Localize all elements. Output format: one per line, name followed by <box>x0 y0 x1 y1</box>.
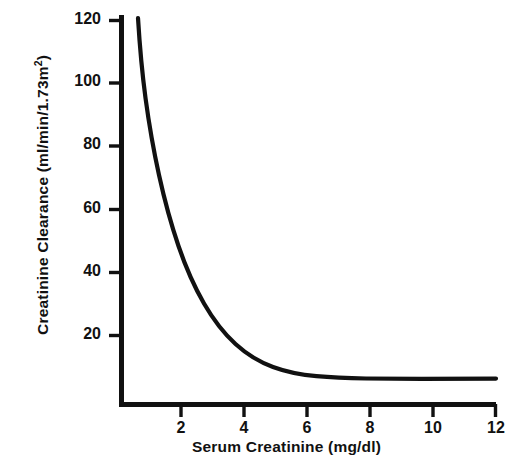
y-tick-label-100: 100 <box>55 72 101 90</box>
y-axis-title-text: Creatinine Clearance (ml/min/1.73m <box>34 66 51 335</box>
x-tick-label-10: 10 <box>418 419 448 437</box>
y-axis-title-superscript: 2 <box>32 60 44 66</box>
y-axis-title-tail: ) <box>34 55 51 60</box>
x-tick-label-12: 12 <box>481 419 509 437</box>
y-tick-label-40: 40 <box>55 262 101 280</box>
y-tick-label-120: 120 <box>55 10 101 28</box>
x-axis-title: Serum Creatinine (mg/dl) <box>192 438 381 456</box>
x-tick-label-8: 8 <box>355 419 385 437</box>
y-tick-label-80: 80 <box>55 135 101 153</box>
x-tick-label-6: 6 <box>292 419 322 437</box>
y-tick-label-60: 60 <box>55 199 101 217</box>
x-tick-label-2: 2 <box>166 419 196 437</box>
x-tick-label-4: 4 <box>229 419 259 437</box>
y-axis-title: Creatinine Clearance (ml/min/1.73m2) <box>34 75 52 335</box>
data-series-creatinine-clearance <box>138 18 496 379</box>
y-tick-label-20: 20 <box>55 325 101 343</box>
